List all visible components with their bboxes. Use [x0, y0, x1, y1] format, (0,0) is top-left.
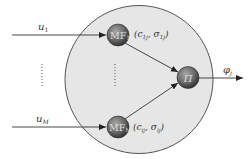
svg-text:Π: Π: [183, 73, 193, 84]
output-label-phi: φj: [223, 64, 232, 77]
product-node: Π: [177, 67, 199, 89]
input-label-u1: u1: [38, 21, 48, 33]
input-label-uM: uM: [36, 113, 49, 125]
fuzzy-neuron-diagram: u1 uM MF1 MFM Π (c1j, σ1j) (cij, σij) φj: [0, 0, 250, 159]
